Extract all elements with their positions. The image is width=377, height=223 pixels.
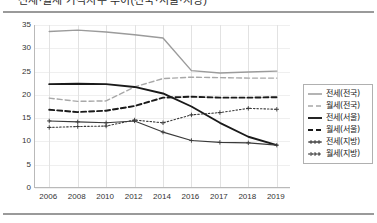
legend-key-icon: [307, 137, 323, 147]
top-divider: [3, 11, 374, 13]
legend-item-label: 월세(전국): [326, 101, 360, 111]
y-axis-tick-label: 25: [1, 68, 31, 76]
x-axis-tick-label: 2019: [256, 192, 296, 201]
chart-page: 전세·월세 가격지수 추이(전국·서울·지방) 05101520253035 2…: [0, 0, 377, 223]
y-axis-tick-label: 30: [1, 44, 31, 52]
series-marker-plus: [75, 124, 79, 128]
y-axis-tick-label: 20: [1, 91, 31, 99]
legend-item-3[interactable]: 월세(서울): [307, 124, 369, 136]
legend-item-5[interactable]: 월세(지방): [307, 148, 369, 160]
legend-item-4[interactable]: 전세(지방): [307, 136, 369, 148]
page-title-text: 전세·월세 가격지수 추이(전국·서울·지방): [18, 0, 207, 7]
plot-area: [34, 25, 290, 188]
legend-item-label: 전세(서울): [326, 113, 360, 123]
legend-item-2[interactable]: 전세(서울): [307, 112, 369, 124]
y-axis-tick-label: 35: [1, 21, 31, 29]
series-marker-plus: [246, 106, 250, 110]
series-line-2: [49, 84, 277, 145]
series-lines: [35, 25, 291, 188]
legend-key-icon: [307, 101, 323, 111]
series-marker-plus: [275, 143, 279, 147]
series-marker-plus: [275, 107, 279, 111]
chart-legend: 전세(전국)월세(전국)전세(서울)월세(서울)전세(지방)월세(지방): [303, 84, 373, 164]
series-marker-plus: [218, 110, 222, 114]
series-line-0: [49, 30, 277, 73]
series-marker-plus: [47, 119, 51, 123]
page-title-clipped: 전세·월세 가격지수 추이(전국·서울·지방): [0, 0, 377, 11]
bottom-divider: [3, 213, 374, 215]
x-axis-labels: 200620082010201220142016201720182019: [0, 192, 377, 204]
legend-key-icon: [307, 113, 323, 123]
gridline-horizontal: [35, 188, 290, 189]
series-marker-plus: [189, 113, 193, 117]
legend-item-1[interactable]: 월세(전국): [307, 100, 369, 112]
y-axis-tick-label: 15: [1, 114, 31, 122]
series-marker-plus: [161, 130, 165, 134]
legend-key-icon: [307, 125, 323, 135]
series-marker-plus: [104, 124, 108, 128]
legend-item-label: 월세(서울): [326, 125, 360, 135]
series-marker-plus: [246, 141, 250, 145]
series-marker-plus: [218, 140, 222, 144]
y-axis-tick-label: 0: [1, 184, 31, 192]
series-marker-plus: [161, 121, 165, 125]
legend-key-icon: [307, 89, 323, 99]
series-marker-plus: [189, 138, 193, 142]
legend-item-label: 전세(전국): [326, 89, 360, 99]
series-marker-plus: [75, 120, 79, 124]
series-line-3: [49, 97, 277, 112]
legend-item-0[interactable]: 전세(전국): [307, 88, 369, 100]
y-axis-labels: 05101520253035: [0, 0, 31, 200]
y-axis-tick-label: 5: [1, 161, 31, 169]
series-marker-plus: [47, 125, 51, 129]
y-axis-tick-label: 10: [1, 137, 31, 145]
legend-key-icon: [307, 149, 323, 159]
legend-item-label: 월세(지방): [326, 149, 360, 159]
legend-item-label: 전세(지방): [326, 137, 360, 147]
